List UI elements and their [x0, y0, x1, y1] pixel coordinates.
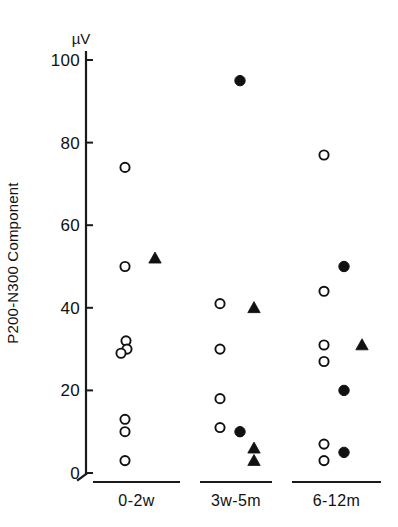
y-tick-label: 80 — [60, 134, 80, 153]
filled-triangle-marker — [356, 339, 368, 350]
filled-circle-marker — [235, 427, 245, 437]
group-label: 6-12m — [313, 492, 360, 509]
filled-triangle-marker — [149, 252, 161, 263]
open-circle-marker — [319, 456, 328, 465]
y-tick-label: 40 — [60, 299, 80, 318]
open-circle-marker — [215, 423, 224, 432]
open-circle-marker — [116, 349, 125, 358]
y-tick-label: 60 — [60, 216, 80, 235]
open-circle-marker — [120, 415, 129, 424]
open-circle-marker — [319, 340, 328, 349]
filled-circle-marker — [235, 75, 245, 85]
filled-triangle-marker — [248, 302, 260, 313]
open-circle-marker — [319, 150, 328, 159]
open-circle-marker — [120, 427, 129, 436]
data-group: 6-12m — [292, 150, 381, 509]
filled-circle-marker — [339, 261, 349, 271]
open-circle-marker — [120, 456, 129, 465]
y-tick-label: 100 — [51, 51, 80, 70]
open-circle-marker — [319, 439, 328, 448]
y-axis-title: P200-N300 Component — [4, 182, 21, 344]
y-tick-label: 20 — [60, 381, 80, 400]
filled-triangle-marker — [248, 454, 260, 465]
group-label: 0-2w — [118, 492, 154, 509]
y-tick-label: 0 — [70, 464, 80, 483]
open-circle-marker — [120, 163, 129, 172]
filled-circle-marker — [339, 385, 349, 395]
open-circle-marker — [319, 287, 328, 296]
open-circle-marker — [215, 394, 224, 403]
scatter-plot-figure: 020406080100 µV P200-N300 Component 0-2w… — [0, 0, 398, 527]
filled-triangle-marker — [248, 442, 260, 453]
y-axis-unit-label: µV — [72, 30, 91, 47]
data-group: 0-2w — [93, 163, 180, 509]
data-groups-layer: 0-2w3w-5m6-12m — [93, 75, 381, 509]
open-circle-marker — [120, 262, 129, 271]
open-circle-marker — [215, 299, 224, 308]
group-label: 3w-5m — [211, 492, 261, 509]
chart-canvas: 020406080100 µV P200-N300 Component 0-2w… — [0, 0, 398, 527]
filled-circle-marker — [339, 447, 349, 457]
open-circle-marker — [319, 357, 328, 366]
data-group: 3w-5m — [200, 75, 272, 509]
open-circle-marker — [215, 345, 224, 354]
